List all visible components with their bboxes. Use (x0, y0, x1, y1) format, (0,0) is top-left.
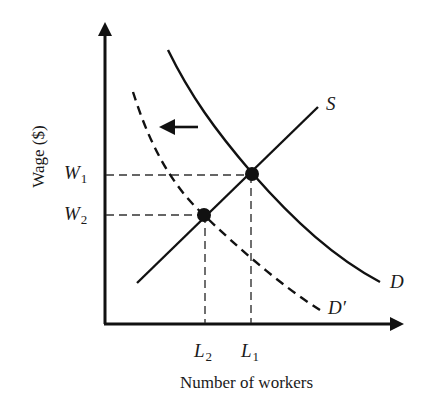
w2-label: W2 (64, 204, 87, 226)
x-axis-arrow-icon (390, 317, 404, 331)
equilibrium-point-2 (197, 208, 211, 222)
demand-shift-arrow-icon (159, 119, 198, 135)
y-axis-arrow-icon (98, 22, 112, 36)
guide-lines (106, 175, 252, 323)
supply-curve-s (137, 107, 318, 283)
l2-label: L2 (194, 341, 212, 363)
l2-subscript: 2 (206, 349, 213, 364)
l1-symbol: L (241, 340, 252, 361)
demand-prime-label: D′ (328, 298, 346, 317)
w1-subscript: 1 (81, 171, 88, 186)
l1-label: L1 (241, 341, 259, 363)
equilibrium-point-1 (245, 167, 259, 181)
l2-symbol: L (194, 340, 205, 361)
l1-subscript: 1 (253, 349, 260, 364)
w2-symbol: W (64, 203, 80, 224)
w1-symbol: W (64, 162, 80, 183)
demand-label: D (390, 272, 404, 291)
supply-label: S (326, 94, 336, 113)
demand-curve-d-prime (133, 92, 320, 310)
demand-curve-d (168, 50, 380, 282)
x-axis-title: Number of workers (180, 374, 313, 391)
w2-subscript: 2 (81, 212, 88, 227)
w1-label: W1 (64, 163, 87, 185)
y-axis-title: Wage ($) (30, 122, 47, 192)
